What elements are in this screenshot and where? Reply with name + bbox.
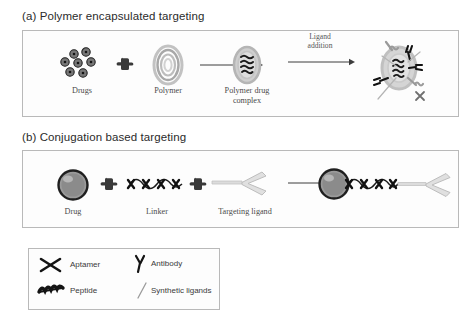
targeted-complex-icon xyxy=(366,32,436,106)
antibody-y-icon xyxy=(134,254,148,274)
polymer-label: Polymer xyxy=(140,86,196,96)
ligand-addition-line2: addition xyxy=(308,41,333,50)
drug-sphere-icon xyxy=(56,168,90,202)
legend-label-aptamer: Aptamer xyxy=(70,260,100,269)
legend-label-peptide: Peptide xyxy=(70,286,97,295)
linker-chain-icon xyxy=(126,172,188,196)
drugs-label: Drugs xyxy=(54,86,110,96)
plus-cross-icon xyxy=(101,177,117,193)
complex-label-line2: complex xyxy=(233,96,261,105)
polymer-drug-complex-label: Polymer drug complex xyxy=(214,86,280,105)
aptamer-x-icon xyxy=(38,256,64,274)
panel-a-title: (a) Polymer encapsulated targeting xyxy=(22,10,204,22)
drug-conjugate-icon xyxy=(318,166,452,202)
peptide-squiggle-icon xyxy=(37,283,65,297)
targeting-ligand-label: Targeting ligand xyxy=(206,207,284,217)
legend-label-synthetic-ligands: Synthetic ligands xyxy=(151,286,211,295)
complex-label-line1: Polymer drug xyxy=(225,86,270,95)
legend-label-antibody: Antibody xyxy=(151,259,182,268)
arrow-right-icon xyxy=(288,57,356,67)
linker-label: Linker xyxy=(130,207,184,217)
ligand-addition-label: Ligand addition xyxy=(288,33,352,50)
polymer-rings-icon xyxy=(148,44,188,86)
antibody-ligand-icon xyxy=(212,170,268,198)
synthetic-ligand-line-icon xyxy=(135,282,149,300)
drug-cluster-icon xyxy=(58,48,106,82)
drug-label: Drug xyxy=(46,207,100,217)
panel-b-title: (b) Conjugation based targeting xyxy=(22,131,186,143)
plus-cross-icon xyxy=(190,177,206,193)
plus-cross-icon xyxy=(117,57,133,73)
polymer-drug-complex-icon xyxy=(228,44,266,86)
